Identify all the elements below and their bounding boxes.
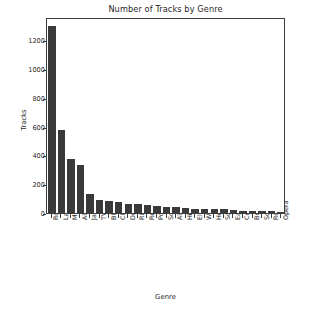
plot-area <box>46 18 285 214</box>
bar <box>153 206 160 213</box>
bars-layer <box>47 19 284 213</box>
bar <box>277 212 284 213</box>
bar <box>58 130 65 213</box>
bar <box>144 205 151 213</box>
bar <box>182 208 189 213</box>
x-axis-label: Genre <box>46 293 285 301</box>
bar <box>77 165 84 213</box>
y-tick-label: 1200 <box>28 38 45 45</box>
bar <box>96 200 103 213</box>
chart-figure: Number of Tracks by Genre Tracks 0200400… <box>0 0 316 316</box>
y-tick-label: 800 <box>32 95 45 102</box>
y-tick-label: 400 <box>32 153 45 160</box>
bar <box>105 201 112 213</box>
x-tick-mark <box>261 214 262 218</box>
bar <box>211 209 218 213</box>
bar <box>125 204 132 213</box>
bar <box>230 210 237 213</box>
bar <box>86 194 93 213</box>
y-tick-label: 200 <box>32 182 45 189</box>
bar <box>258 211 265 213</box>
x-tick-mark <box>108 214 109 218</box>
bar <box>220 209 227 213</box>
bar <box>48 26 55 213</box>
chart-title: Number of Tracks by Genre <box>46 4 285 14</box>
bar <box>249 211 256 213</box>
bar <box>115 202 122 213</box>
bar <box>163 207 170 213</box>
bar <box>239 211 246 213</box>
bar <box>67 159 74 213</box>
y-tick-label: 0 <box>41 211 45 218</box>
y-tick-label: 600 <box>32 124 45 131</box>
bar <box>201 209 208 213</box>
y-tick-label: 1000 <box>28 67 45 74</box>
bar <box>172 207 179 213</box>
y-axis-label: Tracks <box>20 90 28 150</box>
bar <box>191 209 198 213</box>
bar <box>134 204 141 213</box>
bar <box>268 211 275 213</box>
